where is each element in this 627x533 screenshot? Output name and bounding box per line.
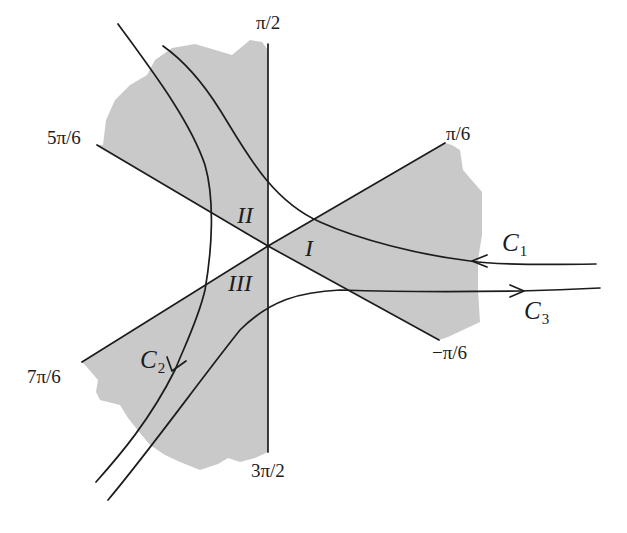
region-label-iii: III — [228, 271, 252, 295]
ray-label-pi-over-2: π/2 — [256, 13, 280, 32]
contour-label-c1-subscript: 1 — [520, 243, 528, 259]
contour-label-c3-name: C — [524, 297, 541, 324]
ray-label-pi-over-6: π/6 — [446, 124, 470, 143]
ray-label-5pi-over-6: 5π/6 — [47, 128, 81, 147]
contour-label-c2-subscript: 2 — [158, 360, 166, 376]
contour-label-c1-name: C — [502, 229, 519, 256]
ray-label-3pi-over-2: 3π/2 — [251, 461, 285, 480]
region-label-ii: II — [237, 203, 253, 227]
ray-label-7pi-over-6: 7π/6 — [27, 367, 61, 386]
contour-label-c2-name: C — [140, 346, 157, 373]
ray-label-minus-pi-over-6: −π/6 — [432, 343, 467, 362]
contour-label-c1: C1 — [502, 230, 527, 259]
stokes-sector-diagram — [0, 0, 627, 533]
region-label-i: I — [305, 236, 313, 260]
contour-label-c3: C3 — [524, 298, 549, 327]
contour-label-c2: C2 — [140, 347, 165, 376]
contour-label-c3-subscript: 3 — [542, 311, 550, 327]
